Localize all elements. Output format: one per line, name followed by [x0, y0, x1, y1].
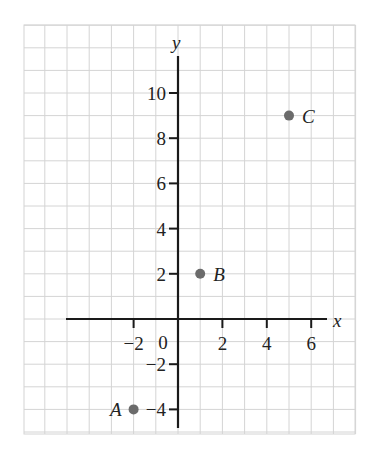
origin-label: 0: [158, 332, 168, 353]
y-tick-label: 2: [157, 264, 167, 285]
coordinate-plane: xy−2246−4−22468100ABC: [0, 0, 377, 461]
y-axis-label: y: [170, 32, 181, 53]
point-c: [284, 111, 294, 121]
y-tick-label: 4: [157, 219, 167, 240]
y-tick-label: −2: [146, 354, 166, 375]
point-a: [129, 404, 139, 414]
point-label-b: B: [213, 264, 225, 285]
grid-border: [24, 25, 355, 434]
y-tick-label: −4: [146, 399, 167, 420]
x-axis-label: x: [332, 310, 342, 331]
y-tick-label: 10: [147, 83, 166, 104]
y-tick-label: 6: [157, 173, 167, 194]
point-label-c: C: [302, 106, 315, 127]
grid: [24, 25, 356, 434]
x-tick-label: 4: [262, 333, 272, 354]
y-tick-label: 8: [157, 128, 167, 149]
x-tick-label: −2: [123, 333, 143, 354]
x-tick-label: 2: [218, 333, 228, 354]
point-label-a: A: [108, 399, 122, 420]
point-b: [195, 269, 205, 279]
x-tick-label: 6: [306, 333, 316, 354]
